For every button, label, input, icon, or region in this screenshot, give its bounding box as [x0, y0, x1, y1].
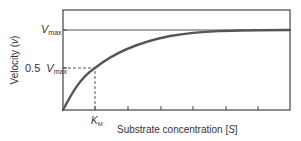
y-tick-label-half-vmax: 0.5 Vmax — [25, 62, 67, 75]
mm-curve — [63, 30, 290, 110]
x-axis-label: Substrate concentration [S] — [117, 124, 238, 135]
x-tick-label-km: KM — [91, 115, 103, 127]
y-axis-label: Velocity (v) — [9, 36, 20, 85]
plot-frame — [63, 10, 290, 110]
y-tick-label-vmax: Vmax — [41, 23, 62, 36]
chart: Velocity (v) Vmax 0.5 Vmax KM Substrate … — [0, 0, 301, 141]
km-guide-dashed — [63, 68, 95, 110]
